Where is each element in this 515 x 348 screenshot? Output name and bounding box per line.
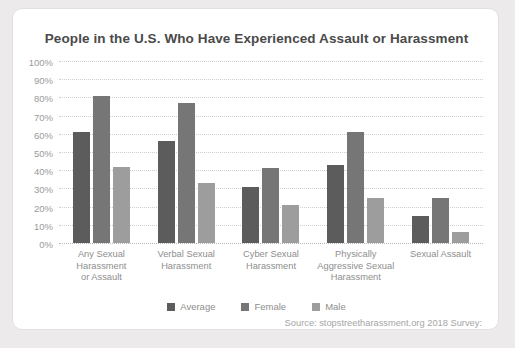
legend-swatch-icon (241, 303, 249, 311)
legend-swatch-icon (167, 303, 175, 311)
bar-average[interactable] (412, 216, 429, 243)
legend-item[interactable]: Male (312, 301, 346, 312)
bar-male[interactable] (452, 232, 469, 243)
y-axis-tick-label: 10% (34, 220, 53, 231)
bar-female[interactable] (347, 132, 364, 243)
plot-area: 0%10%20%30%40%50%60%70%80%90%100% (59, 61, 483, 243)
x-axis-label-line: Verbal Sexual (146, 249, 227, 261)
bar-average[interactable] (327, 165, 344, 243)
x-axis-label-line: Harassment (315, 272, 396, 284)
y-axis-tick-label: 0% (39, 239, 53, 250)
y-axis-tick-label: 90% (34, 75, 53, 86)
x-axis-category-label: Cyber SexualHarassment (229, 249, 314, 284)
y-axis-tick-label: 70% (34, 111, 53, 122)
legend-swatch-icon (312, 303, 320, 311)
chart-card: People in the U.S. Who Have Experienced … (12, 8, 499, 330)
y-axis-tick-label: 20% (34, 202, 53, 213)
x-axis-label-line: Cyber Sexual (231, 249, 312, 261)
x-axis-label-line: Harassment (146, 261, 227, 273)
y-axis-tick-label: 80% (34, 93, 53, 104)
x-axis-label-line: Sexual Assault (400, 249, 481, 261)
legend-label: Average (180, 301, 215, 312)
bar-group (229, 61, 314, 243)
y-axis-tick-label: 50% (34, 148, 53, 159)
y-axis-tick-label: 40% (34, 166, 53, 177)
legend-item[interactable]: Female (241, 301, 286, 312)
legend-item[interactable]: Average (167, 301, 215, 312)
x-axis-category-label: PhysicallyAggressive SexualHarassment (313, 249, 398, 284)
bar-female[interactable] (93, 96, 110, 243)
x-axis-label-line: Harassment (61, 261, 142, 273)
bar-average[interactable] (158, 141, 175, 243)
x-axis-label-line: Any Sexual (61, 249, 142, 261)
x-axis-label-line: Physically (315, 249, 396, 261)
bar-male[interactable] (113, 167, 130, 243)
page-title: People in the U.S. Who Have Experienced … (13, 31, 500, 46)
bar-average[interactable] (242, 187, 259, 243)
gridline: 0% (59, 243, 483, 244)
bar-female[interactable] (178, 103, 195, 243)
y-axis-tick-label: 30% (34, 184, 53, 195)
legend-label: Female (254, 301, 286, 312)
x-axis-labels: Any SexualHarassmentor AssaultVerbal Sex… (59, 249, 483, 284)
bar-group (144, 61, 229, 243)
y-axis-tick-label: 60% (34, 129, 53, 140)
x-axis-category-label: Verbal SexualHarassment (144, 249, 229, 284)
bar-female[interactable] (432, 198, 449, 244)
source-note: Source: stopstreetharassment.org 2018 Su… (285, 318, 482, 328)
bar-male[interactable] (198, 183, 215, 243)
bar-group (398, 61, 483, 243)
bar-male[interactable] (282, 205, 299, 243)
x-axis-category-label: Any SexualHarassmentor Assault (59, 249, 144, 284)
bar-group (313, 61, 398, 243)
bar-average[interactable] (73, 132, 90, 243)
y-axis-tick-label: 100% (29, 57, 53, 68)
bar-male[interactable] (367, 198, 384, 244)
x-axis-label-line: or Assault (61, 272, 142, 284)
bar-groups (59, 61, 483, 243)
x-axis-label-line: Aggressive Sexual (315, 261, 396, 273)
x-axis-label-line: Harassment (231, 261, 312, 273)
legend-label: Male (325, 301, 346, 312)
bar-female[interactable] (262, 168, 279, 243)
bar-group (59, 61, 144, 243)
x-axis-category-label: Sexual Assault (398, 249, 483, 284)
chart-legend: AverageFemaleMale (13, 301, 500, 312)
